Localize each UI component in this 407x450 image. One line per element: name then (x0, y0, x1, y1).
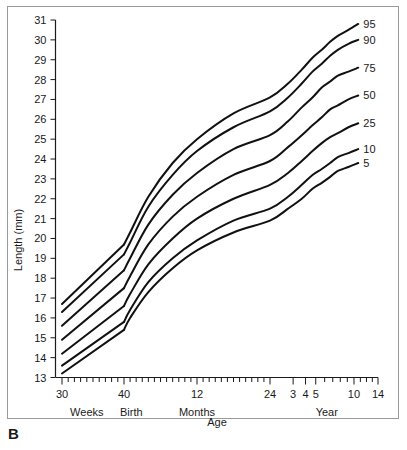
x-axis-tick-labels: 304012243451014 (56, 388, 384, 400)
y-tick-label: 18 (34, 272, 46, 284)
x-group-label: Birth (120, 406, 143, 418)
percentile-curve-5 (124, 163, 358, 330)
length-for-age-percentile-chart: 13141516171819202122232425262728293031 L… (0, 0, 407, 450)
percentile-label-90: 90 (363, 34, 375, 46)
y-tick-label: 20 (34, 232, 46, 244)
percentile-curve-90 (124, 40, 358, 255)
percentile-label-75: 75 (363, 62, 375, 74)
x-tick-label: 3 (290, 388, 296, 400)
percentile-curve-5 (62, 330, 124, 374)
y-tick-label: 25 (34, 133, 46, 145)
y-tick-label: 21 (34, 213, 46, 225)
y-tick-label: 14 (34, 352, 46, 364)
x-tick-label: 24 (264, 388, 276, 400)
x-group-label: Weeks (70, 406, 104, 418)
percentile-curves (62, 24, 358, 374)
percentile-labels: 9590755025105 (363, 18, 375, 169)
x-tick-label: 5 (313, 388, 319, 400)
x-tick-label: 10 (348, 388, 360, 400)
x-axis: 304012243451014 WeeksBirthMonthsYear (56, 378, 385, 418)
y-tick-label: 27 (34, 93, 46, 105)
y-axis-ticks (51, 20, 56, 378)
percentile-label-5: 5 (363, 157, 369, 169)
y-tick-label: 24 (34, 153, 46, 165)
percentile-label-25: 25 (363, 117, 375, 129)
x-axis-ticks (62, 378, 378, 385)
y-tick-label: 23 (34, 173, 46, 185)
x-tick-label: 30 (56, 388, 68, 400)
percentile-curve-75 (62, 270, 124, 326)
y-axis-title: Length (mm) (12, 209, 24, 271)
x-tick-label: 14 (372, 388, 384, 400)
y-tick-label: 31 (34, 14, 46, 26)
x-axis-title: Age (207, 416, 227, 428)
y-axis: 13141516171819202122232425262728293031 (34, 14, 55, 384)
x-tick-label: 40 (118, 388, 130, 400)
y-tick-label: 16 (34, 312, 46, 324)
y-tick-label: 29 (34, 54, 46, 66)
y-tick-label: 17 (34, 292, 46, 304)
y-tick-label: 30 (34, 34, 46, 46)
percentile-curve-25 (124, 123, 358, 306)
percentile-curve-10 (62, 322, 124, 366)
percentile-label-10: 10 (363, 143, 375, 155)
percentile-label-50: 50 (363, 89, 375, 101)
x-tick-label: 12 (191, 388, 203, 400)
y-tick-label: 19 (34, 252, 46, 264)
x-tick-label: 4 (302, 388, 308, 400)
panel-label: B (8, 426, 19, 442)
x-group-label: Year (316, 406, 339, 418)
y-tick-label: 28 (34, 74, 46, 86)
y-tick-label: 15 (34, 332, 46, 344)
percentile-label-95: 95 (363, 18, 375, 30)
y-axis-tick-labels: 13141516171819202122232425262728293031 (34, 14, 46, 384)
percentile-curve-10 (124, 149, 358, 322)
percentile-curve-90 (62, 254, 124, 312)
growth-chart-figure: 13141516171819202122232425262728293031 L… (0, 0, 407, 450)
y-tick-label: 13 (34, 372, 46, 384)
x-axis-group-labels: WeeksBirthMonthsYear (70, 406, 338, 418)
y-tick-label: 26 (34, 113, 46, 125)
y-tick-label: 22 (34, 193, 46, 205)
